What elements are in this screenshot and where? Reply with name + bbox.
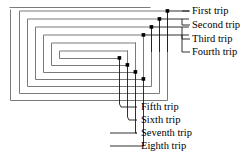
marker-fourth-trip bbox=[142, 33, 146, 37]
spiral-ring-3 bbox=[28, 19, 160, 87]
label-first-trip: First trip bbox=[192, 5, 228, 16]
label-dashes-right bbox=[182, 11, 190, 52]
marker-third-trip bbox=[150, 25, 154, 29]
label-eighth-trip: Eighth trip bbox=[141, 140, 186, 151]
marker-fifth-trip bbox=[118, 56, 122, 60]
spiral-ring-2 bbox=[20, 11, 168, 94]
label-sixth-trip: Sixth trip bbox=[141, 114, 180, 125]
spiral-trip-diagram: First trip Second trip Third trip Fourth… bbox=[0, 0, 250, 157]
label-seventh-trip: Seventh trip bbox=[141, 127, 192, 138]
spiral-ring-7 bbox=[60, 51, 128, 59]
marker-seventh-trip bbox=[134, 70, 138, 74]
marker-sixth-trip bbox=[126, 63, 130, 67]
label-second-trip: Second trip bbox=[192, 19, 240, 30]
label-third-trip: Third trip bbox=[192, 33, 233, 44]
leader-line-seventh bbox=[136, 72, 138, 133]
spiral-ring-5 bbox=[44, 35, 144, 73]
label-fourth-trip: Fourth trip bbox=[192, 46, 237, 57]
leader-lines-bottom bbox=[110, 58, 144, 146]
marker-first-trip bbox=[166, 9, 170, 13]
marker-second-trip bbox=[158, 17, 162, 21]
marker-eighth-trip bbox=[142, 77, 146, 81]
label-fifth-trip: Fifth trip bbox=[141, 101, 179, 112]
spiral-ring-6 bbox=[52, 43, 136, 66]
